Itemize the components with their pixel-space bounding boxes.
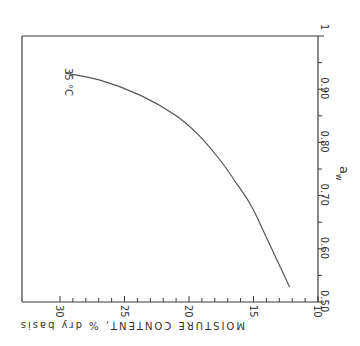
moisture-tick-label: 15 xyxy=(248,305,259,318)
moisture-sorption-chart: 3025201510 0.500.600.700.800.901 35 °C M… xyxy=(0,0,360,346)
moisture-axis-title: MOISTURE CONTENT, % dry basis xyxy=(19,320,245,331)
aw-axis-title-sub: w xyxy=(334,174,343,181)
moisture-tick-label: 20 xyxy=(183,305,194,318)
aw-tick-label: 1 xyxy=(319,24,330,30)
aw-tick-label: 0.60 xyxy=(319,237,330,259)
curve-label: 35 °C xyxy=(63,68,74,96)
moisture-axis-ticks xyxy=(60,296,318,302)
aw-axis-ticks xyxy=(318,36,324,302)
moisture-axis-tick-labels: 3025201510 xyxy=(54,305,323,318)
aw-tick-label: 0.80 xyxy=(319,130,330,152)
aw-axis-title: a w xyxy=(334,166,352,181)
aw-axis-title-main: a xyxy=(337,166,352,174)
aw-tick-label: 0.50 xyxy=(319,290,330,312)
aw-tick-label: 0.90 xyxy=(319,77,330,99)
aw-axis-tick-labels: 0.500.600.700.800.901 xyxy=(319,24,330,312)
moisture-tick-label: 30 xyxy=(54,305,65,318)
moisture-tick-label: 25 xyxy=(119,305,130,318)
aw-tick-label: 0.70 xyxy=(319,184,330,206)
sorption-curve-35c xyxy=(65,73,289,287)
